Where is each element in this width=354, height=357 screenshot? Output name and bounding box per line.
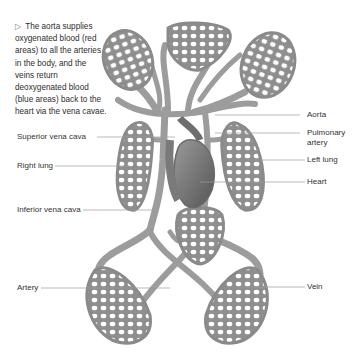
label-vein: Vein	[307, 282, 323, 292]
capillary-bed-upper-left	[95, 24, 161, 97]
left-lung-shape	[222, 123, 264, 210]
capillary-bed-lower-left	[87, 268, 151, 343]
label-right-lung: Right lung	[17, 161, 53, 171]
circulation-diagram	[0, 0, 354, 357]
label-artery: Artery	[17, 283, 38, 293]
label-heart: Heart	[307, 177, 327, 187]
label-superior-vena-cava: Superior vena cava	[17, 132, 86, 142]
capillary-bed-lower-right	[206, 268, 268, 343]
label-pulmonary-artery-line2: artery	[307, 138, 327, 148]
label-pulmonary-artery-line1: Pulmonary	[307, 128, 345, 138]
label-inferior-vena-cava: Inferior vena cava	[17, 205, 81, 215]
label-aorta: Aorta	[307, 110, 326, 120]
capillary-bed-upper-center	[168, 23, 230, 70]
label-left-lung: Left lung	[307, 155, 338, 165]
